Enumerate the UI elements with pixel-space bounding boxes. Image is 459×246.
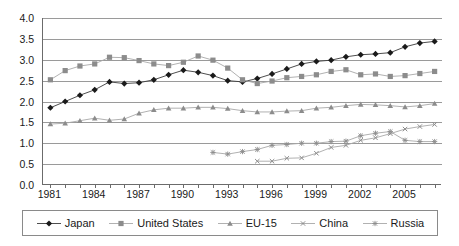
- data-point-star: [358, 133, 363, 138]
- data-point-star: [372, 220, 377, 225]
- data-point-square: [432, 69, 437, 74]
- data-point-square: [373, 71, 378, 76]
- series-russia: [210, 129, 437, 157]
- legend-item-russia[interactable]: Russia: [362, 218, 425, 229]
- data-point-square: [284, 75, 289, 80]
- data-point-diamond: [166, 72, 172, 78]
- x-tick-label: 1999: [304, 188, 327, 200]
- legend-item-united-states[interactable]: United States: [108, 218, 203, 229]
- x-tick-label: 1996: [259, 188, 282, 200]
- data-point-square: [299, 74, 304, 79]
- data-point-square: [92, 61, 97, 66]
- data-point-square: [240, 77, 245, 82]
- series-eu-15: [48, 101, 438, 126]
- x-axis: 198119841987199019931996199920022005: [0, 188, 459, 204]
- data-point-diamond: [417, 40, 423, 46]
- data-point-star: [343, 139, 348, 144]
- plot-area: [42, 18, 441, 185]
- data-point-diamond: [269, 71, 275, 77]
- x-tick-label: 1993: [215, 188, 238, 200]
- data-point-diamond: [136, 80, 142, 86]
- data-point-square: [196, 53, 201, 58]
- data-point-square: [358, 72, 363, 77]
- data-point-diamond: [92, 87, 98, 93]
- data-point-triangle: [432, 101, 438, 106]
- data-point-diamond: [284, 66, 290, 72]
- legend-label: China: [319, 218, 348, 229]
- legend-marker-star-icon: [362, 218, 388, 229]
- line-chart: 0.00.51.01.52.02.53.03.54.0 198119841987…: [0, 0, 459, 246]
- data-point-diamond: [46, 220, 52, 226]
- data-point-diamond: [432, 38, 438, 44]
- data-point-square: [255, 81, 260, 86]
- x-tick-label: 2005: [392, 188, 415, 200]
- data-point-square: [269, 78, 274, 83]
- legend-item-eu-15[interactable]: EU-15: [217, 218, 277, 229]
- y-tick-label: 1.0: [0, 138, 34, 149]
- data-point-square: [314, 72, 319, 77]
- data-point-diamond: [225, 78, 231, 84]
- legend-marker-triangle-icon: [217, 218, 243, 229]
- data-point-diamond: [402, 44, 408, 50]
- data-point-square: [343, 67, 348, 72]
- data-point-diamond: [299, 61, 305, 67]
- legend-item-japan[interactable]: Japan: [36, 218, 95, 229]
- data-point-star: [388, 129, 393, 134]
- chart-legend: JapanUnited StatesEU-15ChinaRussia: [22, 210, 438, 236]
- legend-marker-diamond-icon: [36, 218, 62, 229]
- data-point-diamond: [121, 80, 127, 86]
- data-point-square: [210, 58, 215, 63]
- x-tick-label: 2002: [348, 188, 371, 200]
- y-tick-label: 4.0: [0, 13, 34, 24]
- legend-item-china[interactable]: China: [290, 218, 348, 229]
- legend-label: United States: [137, 218, 203, 229]
- x-tick-label: 1984: [82, 188, 105, 200]
- data-point-diamond: [151, 77, 157, 83]
- data-point-star: [314, 141, 319, 146]
- data-point-square: [417, 71, 422, 76]
- x-tick-label: 1981: [38, 188, 61, 200]
- data-point-star: [284, 142, 289, 147]
- data-point-square: [225, 66, 230, 71]
- data-point-star: [240, 149, 245, 154]
- y-tick-label: 3.5: [0, 34, 34, 45]
- series-layer: [43, 18, 442, 185]
- data-point-star: [417, 139, 422, 144]
- data-point-diamond: [210, 73, 216, 79]
- legend-marker-x-icon: [290, 218, 316, 229]
- data-point-star: [255, 147, 260, 152]
- data-point-triangle: [92, 115, 98, 120]
- data-point-square: [122, 55, 127, 60]
- data-point-diamond: [343, 54, 349, 60]
- data-point-star: [402, 138, 407, 143]
- data-point-diamond: [195, 69, 201, 75]
- data-point-square: [402, 73, 407, 78]
- data-point-star: [269, 143, 274, 148]
- data-point-square: [388, 74, 393, 79]
- series-united-states: [48, 53, 437, 86]
- data-point-square: [136, 58, 141, 63]
- data-point-square: [107, 55, 112, 60]
- data-point-diamond: [106, 79, 112, 85]
- data-point-square: [119, 220, 124, 225]
- data-point-diamond: [387, 50, 393, 56]
- data-point-diamond: [358, 52, 364, 58]
- data-point-star: [432, 139, 437, 144]
- data-point-diamond: [47, 105, 53, 111]
- data-point-square: [329, 69, 334, 74]
- data-point-diamond: [372, 51, 378, 57]
- data-point-diamond: [313, 58, 319, 64]
- y-tick-label: 0.5: [0, 159, 34, 170]
- y-tick-label: 2.0: [0, 97, 34, 108]
- data-point-square: [48, 77, 53, 82]
- data-point-star: [210, 150, 215, 155]
- data-point-x: [314, 151, 318, 155]
- x-tick-label: 1990: [171, 188, 194, 200]
- data-point-diamond: [180, 67, 186, 73]
- data-point-star: [329, 139, 334, 144]
- data-point-diamond: [62, 98, 68, 104]
- data-point-star: [225, 151, 230, 156]
- x-tick-label: 1987: [126, 188, 149, 200]
- legend-marker-square-icon: [108, 218, 134, 229]
- data-point-square: [77, 63, 82, 68]
